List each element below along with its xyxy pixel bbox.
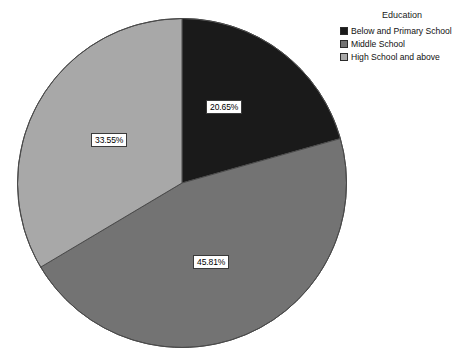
pie-graphic bbox=[17, 18, 347, 348]
pie-svg bbox=[17, 18, 347, 348]
legend-item-label: Below and Primary School bbox=[351, 26, 452, 36]
legend-title: Education bbox=[342, 10, 462, 21]
legend-item-high-school-and-above[interactable]: High School and above bbox=[340, 51, 472, 63]
pie-slice-label-middle-school: 45.81% bbox=[193, 255, 229, 269]
pie-chart: 20.65% 45.81% 33.55% Education Below and… bbox=[0, 0, 472, 362]
legend-item-middle-school[interactable]: Middle School bbox=[340, 38, 472, 50]
legend-item-label: High School and above bbox=[351, 52, 440, 62]
pie-slices bbox=[17, 18, 346, 347]
legend-swatch-icon bbox=[340, 53, 348, 61]
pie-slice-label-high-school-and-above: 33.55% bbox=[91, 133, 127, 147]
legend-item-below-and-primary-school[interactable]: Below and Primary School bbox=[340, 25, 472, 37]
legend-swatch-icon bbox=[340, 27, 348, 35]
legend-swatch-icon bbox=[340, 40, 348, 48]
legend: Education Below and Primary School Middl… bbox=[340, 10, 472, 64]
pie-slice-label-below-and-primary-school: 20.65% bbox=[206, 100, 242, 114]
legend-item-label: Middle School bbox=[351, 39, 405, 49]
